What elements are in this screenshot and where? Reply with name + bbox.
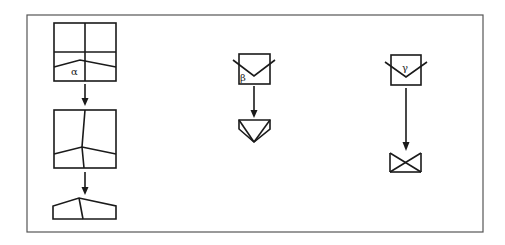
alpha-stage-3-final — [53, 198, 116, 219]
alpha-box-2-vertical-boundary — [82, 110, 85, 168]
column-beta: β — [233, 54, 275, 142]
column-gamma: γ — [385, 55, 427, 172]
diagram-canvas: α β — [0, 0, 505, 245]
column-alpha: α — [53, 23, 116, 219]
alpha-stage-2-intermediate — [54, 110, 116, 168]
beta-stage-2-final — [239, 120, 270, 142]
outer-frame — [27, 15, 483, 232]
beta-label: β — [240, 72, 246, 83]
beta-final-shape — [239, 120, 270, 142]
alpha-arrow-1-head — [82, 98, 89, 106]
alpha-final-shape — [53, 198, 116, 219]
alpha-stage-1-initial-grid: α — [54, 23, 116, 81]
gamma-label: γ — [402, 62, 408, 73]
alpha-final-boundary — [79, 198, 83, 219]
gamma-stage-1-initial: γ — [385, 55, 427, 85]
alpha-label: α — [71, 66, 78, 77]
alpha-arrow-1 — [82, 84, 89, 106]
beta-arrow — [251, 86, 258, 118]
beta-arrow-head — [251, 110, 258, 118]
gamma-arrow-head — [403, 142, 410, 151]
alpha-box-2-grain-boundary — [54, 147, 116, 154]
gamma-stage-2-final-bowtie — [390, 153, 421, 172]
alpha-arrow-2 — [82, 172, 89, 195]
beta-stage-1-initial: β — [233, 54, 275, 84]
alpha-arrow-2-head — [82, 187, 89, 195]
gamma-arrow — [403, 88, 410, 151]
